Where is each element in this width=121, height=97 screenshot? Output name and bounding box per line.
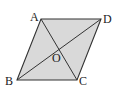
vertex-label-a: A <box>30 10 39 24</box>
center-label-o: O <box>52 51 61 65</box>
parallelogram-diagram: A D B C O <box>0 0 121 97</box>
vertex-label-b: B <box>5 74 13 88</box>
vertex-label-c: C <box>79 74 87 88</box>
vertex-label-d: D <box>103 12 112 26</box>
